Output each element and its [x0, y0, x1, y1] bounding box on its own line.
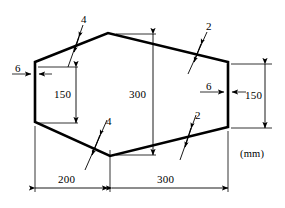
thickness-label-right-edge: 6 [206, 81, 212, 92]
thickness-label-bottom-right: 2 [195, 110, 201, 121]
thickness-label-bottom-left: 4 [106, 116, 112, 127]
dimension-label-right-height: 150 [245, 90, 262, 101]
thickness-label-left-edge: 6 [15, 63, 21, 74]
thickness-label-top-right: 2 [206, 21, 212, 32]
dimension-label-center-height: 300 [129, 89, 146, 100]
thickness-leader-top-left [68, 25, 83, 67]
dimension-label-bottom-left-width: 200 [58, 174, 75, 185]
dimension-label-left-height: 150 [54, 89, 71, 100]
technical-drawing-svg [0, 0, 285, 208]
thickness-label-top-left: 4 [81, 14, 87, 25]
dimension-label-bottom-right-width: 300 [157, 174, 174, 185]
drawing-canvas: 4 2 4 2 6 6 150 300 150 200 300 (mm) [0, 0, 285, 208]
units-note: (mm) [240, 149, 264, 160]
